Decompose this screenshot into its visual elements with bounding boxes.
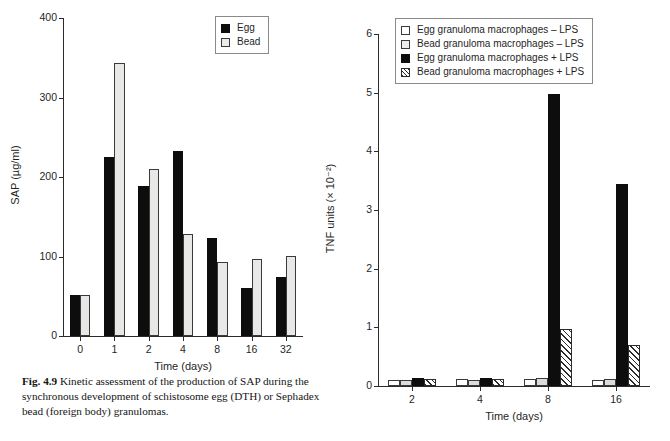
- legend-item-egg-plus-lps: Egg granuloma macrophages + LPS: [401, 51, 584, 65]
- x-axis-tick-label: 8: [528, 393, 568, 405]
- legend-label-bead-minus-lps: Bead granuloma macrophages – LPS: [417, 37, 584, 51]
- legend-item-bead-minus-lps: Bead granuloma macrophages – LPS: [401, 37, 584, 51]
- figure-caption-text: Kinetic assessment of the production of …: [22, 375, 319, 417]
- x-axis-title-tnf: Time (days): [378, 410, 650, 422]
- y-axis-tick: [374, 269, 378, 270]
- y-axis-tick: [59, 336, 63, 337]
- bar-egg-8: [207, 238, 217, 336]
- legend-label-bead: Bead: [237, 35, 260, 49]
- legend-item-egg: Egg: [221, 21, 260, 35]
- plot-area-tnf: [378, 34, 650, 386]
- y-axis-tick: [59, 18, 63, 19]
- bar-bead-granuloma-macrophages-lps-2: [424, 379, 436, 386]
- bar-egg-1: [104, 157, 114, 336]
- bar-bead-granuloma-macrophages-lps-4: [468, 380, 480, 386]
- bar-egg-granuloma-macrophages-lps-2: [388, 380, 400, 386]
- x-axis-title-sap: Time (days): [63, 360, 303, 372]
- x-axis-tick: [149, 337, 150, 341]
- bar-egg-0: [70, 295, 80, 336]
- y-axis-tick-label: 4: [334, 144, 372, 156]
- y-axis-tick: [374, 210, 378, 211]
- bar-bead-0: [80, 295, 90, 336]
- y-axis-tick: [374, 151, 378, 152]
- bar-egg-32: [276, 277, 286, 336]
- y-axis-tick: [59, 257, 63, 258]
- legend-swatch-bead-plus-lps: [401, 68, 410, 77]
- y-axis-line: [378, 34, 379, 386]
- x-axis-tick: [548, 387, 549, 391]
- bar-bead-granuloma-macrophages-lps-8: [560, 329, 572, 386]
- legend-swatch-egg-minus-lps: [401, 26, 410, 35]
- bar-egg-16: [241, 288, 251, 336]
- y-axis-tick: [59, 98, 63, 99]
- bar-bead-granuloma-macrophages-lps-16: [628, 345, 640, 386]
- x-axis-tick: [114, 337, 115, 341]
- bar-egg-granuloma-macrophages-lps-16: [616, 184, 628, 386]
- bar-egg-2: [138, 186, 148, 336]
- chart-tnf-units: TNF units (× 10⁻²) Time (days) Egg granu…: [330, 0, 670, 441]
- x-axis-tick: [286, 337, 287, 341]
- x-axis-tick-label: 16: [596, 393, 636, 405]
- bar-bead-1: [114, 63, 124, 336]
- figure-caption: Fig. 4.9 Kinetic assessment of the produ…: [22, 374, 322, 420]
- bar-bead-8: [217, 262, 227, 336]
- legend-swatch-egg-plus-lps: [401, 54, 410, 63]
- y-axis-tick: [374, 386, 378, 387]
- legend-swatch-bead: [221, 38, 230, 47]
- bar-egg-granuloma-macrophages-lps-4: [456, 379, 468, 386]
- x-axis-tick: [183, 337, 184, 341]
- y-axis-tick-label: 400: [19, 11, 57, 23]
- y-axis-tick-label: 300: [19, 91, 57, 103]
- bar-bead-granuloma-macrophages-lps-2: [400, 380, 412, 386]
- legend-label-bead-plus-lps: Bead granuloma macrophages + LPS: [417, 65, 584, 79]
- x-axis-tick: [80, 337, 81, 341]
- legend-swatch-bead-minus-lps: [401, 40, 410, 49]
- bar-bead-16: [252, 259, 262, 336]
- y-axis-tick: [59, 177, 63, 178]
- y-axis-line: [63, 18, 64, 336]
- legend-item-bead-plus-lps: Bead granuloma macrophages + LPS: [401, 65, 584, 79]
- x-axis-tick: [412, 387, 413, 391]
- bar-bead-granuloma-macrophages-lps-16: [604, 379, 616, 386]
- figure-4-9: SAP (µg/ml) Time (days) Egg Bead 0100200…: [0, 0, 670, 441]
- legend-swatch-egg: [221, 24, 230, 33]
- y-axis-tick-label: 100: [19, 250, 57, 262]
- x-axis-line: [378, 386, 650, 387]
- y-axis-tick-label: 6: [334, 27, 372, 39]
- x-axis-tick-label: 32: [266, 343, 306, 355]
- y-axis-tick-label: 0: [19, 329, 57, 341]
- bar-egg-granuloma-macrophages-lps-4: [480, 378, 492, 386]
- bar-bead-granuloma-macrophages-lps-8: [536, 378, 548, 386]
- bar-egg-granuloma-macrophages-lps-8: [524, 379, 536, 386]
- legend-sap: Egg Bead: [215, 16, 269, 54]
- x-axis-tick: [252, 337, 253, 341]
- legend-label-egg-plus-lps: Egg granuloma macrophages + LPS: [417, 51, 579, 65]
- y-axis-tick: [374, 34, 378, 35]
- figure-caption-label: Fig. 4.9: [22, 375, 57, 387]
- x-axis-tick: [217, 337, 218, 341]
- y-axis-tick: [374, 327, 378, 328]
- y-axis-tick-label: 3: [334, 203, 372, 215]
- legend-item-egg-minus-lps: Egg granuloma macrophages – LPS: [401, 23, 584, 37]
- legend-tnf: Egg granuloma macrophages – LPS Bead gra…: [395, 18, 593, 84]
- x-axis-tick-label: 4: [460, 393, 500, 405]
- y-axis-tick-label: 1: [334, 320, 372, 332]
- y-axis-tick-label: 200: [19, 170, 57, 182]
- legend-label-egg: Egg: [237, 21, 255, 35]
- y-axis-tick-label: 0: [334, 379, 372, 391]
- x-axis-tick-label: 2: [392, 393, 432, 405]
- bar-egg-granuloma-macrophages-lps-16: [592, 380, 604, 386]
- chart-sap-kinetics: SAP (µg/ml) Time (days) Egg Bead 0100200…: [0, 0, 340, 370]
- x-axis-tick: [616, 387, 617, 391]
- bar-bead-2: [149, 169, 159, 336]
- bar-egg-4: [173, 151, 183, 336]
- legend-label-egg-minus-lps: Egg granuloma macrophages – LPS: [417, 23, 578, 37]
- legend-item-bead: Bead: [221, 35, 260, 49]
- bar-egg-granuloma-macrophages-lps-8: [548, 94, 560, 386]
- bar-bead-granuloma-macrophages-lps-4: [492, 379, 504, 386]
- y-axis-tick-label: 2: [334, 262, 372, 274]
- bar-bead-32: [286, 256, 296, 336]
- bar-bead-4: [183, 234, 193, 336]
- y-axis-tick: [374, 93, 378, 94]
- x-axis-tick: [480, 387, 481, 391]
